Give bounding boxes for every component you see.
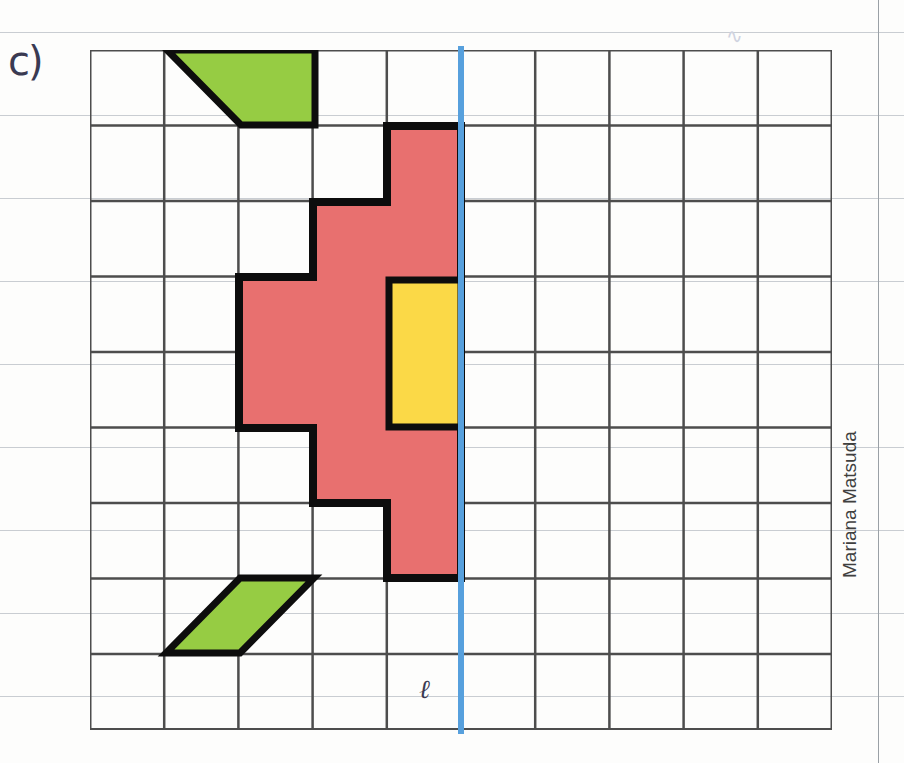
ruled-line (0, 32, 904, 33)
green-parallelogram-top (167, 50, 315, 125)
page-margin-line (878, 0, 879, 763)
faint-scribble-mark: ∿ (726, 24, 743, 48)
green-parallelogram-bottom (166, 578, 314, 653)
symmetry-line-label: ℓ (419, 674, 430, 705)
yellow-rectangle (389, 280, 461, 427)
worksheet-page: c) ∿ ℓ Mariana Matsuda (0, 0, 904, 763)
line-of-symmetry (458, 46, 464, 734)
exercise-label: c) (8, 38, 42, 84)
author-credit: Mariana Matsuda (839, 431, 861, 578)
